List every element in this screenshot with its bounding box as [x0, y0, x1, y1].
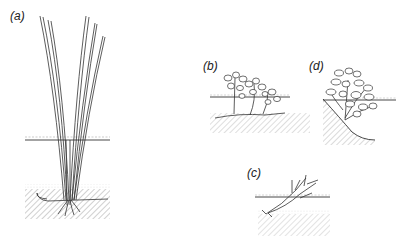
panel-a-label: (a) — [10, 10, 25, 22]
panel-c-label: (c) — [247, 167, 261, 179]
panel-b-label: (b) — [203, 60, 218, 72]
panel-d-label: (d) — [309, 60, 324, 72]
illustration-svg — [0, 0, 411, 243]
botanical-figure: (a) (b) (c) (d) — [0, 0, 411, 243]
panel-d-plant — [323, 68, 396, 145]
panel-b-plant — [210, 72, 310, 133]
panel-c-plant — [255, 175, 330, 236]
panel-a-plant — [25, 16, 110, 219]
